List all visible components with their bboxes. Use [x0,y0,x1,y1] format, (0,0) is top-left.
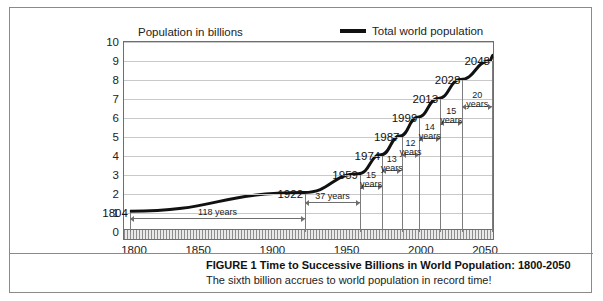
interval-label: 15 years [438,107,464,126]
interval-bracket [305,202,360,203]
milestone-year-label: 2013 [412,93,440,105]
y-axis-tick: 2 [113,188,119,200]
plot-frame: 0123456789101800185019001950200020501804… [123,41,494,240]
y-axis-title: Population in billions [138,26,243,38]
figure-card: Population in billions Total world popul… [9,7,592,293]
y-axis-tick: 4 [113,150,119,162]
milestone-drop-line [492,61,493,232]
y-axis-tick: 9 [113,55,119,67]
gridline [124,194,493,195]
interval-label: 118 years [198,208,237,217]
gridline [124,42,493,43]
caption-subtitle: The sixth billion accrues to world popul… [206,274,593,286]
caption-title: FIGURE 1 Time to Successive Billions in … [206,259,593,271]
y-axis-tick: 8 [113,74,119,86]
interval-label: 20 years [464,91,490,110]
y-axis-tick: 10 [106,36,119,48]
y-axis-tick: 5 [113,131,119,143]
y-axis-tick: 6 [113,112,119,124]
milestone-year-label: 1999 [392,112,420,124]
gridline [124,156,493,157]
interval-label: 37 years [315,192,350,201]
chart-area: Population in billions Total world popul… [10,8,593,253]
milestone-year-label: 1922 [277,188,305,200]
gridline [124,175,493,176]
y-axis-tick: 0 [113,226,119,238]
legend-line-swatch [340,29,366,33]
milestone-year-label: 2028 [435,74,463,86]
interval-bracket [130,218,305,219]
milestone-year-label: 1804 [102,207,130,219]
figure-caption: FIGURE 1 Time to Successive Billions in … [10,253,593,294]
gridline [124,61,493,62]
milestone-year-label: 1959 [332,169,360,181]
y-axis-tick: 7 [113,93,119,105]
milestone-year-label: 2048 [464,55,492,67]
y-axis-tick: 3 [113,169,119,181]
legend-label: Total world population [372,25,483,37]
gridline [124,213,493,214]
chart-legend: Total world population [340,25,483,37]
